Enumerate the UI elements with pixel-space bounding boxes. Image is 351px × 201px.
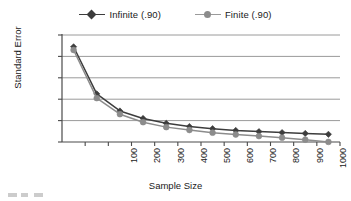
- scan-artifact: [8, 193, 44, 198]
- x-tick-label: 300: [176, 148, 186, 188]
- data-point-marker: [256, 133, 262, 139]
- series-line: [74, 47, 329, 135]
- data-point-marker: [302, 137, 308, 143]
- series-finite: [71, 47, 332, 145]
- x-tick-label: 100: [129, 148, 139, 188]
- chart-figure: Infinite (.90) Finite (.90) Standard Err…: [0, 0, 351, 201]
- plot-area: [62, 35, 340, 142]
- x-tick-label: 200: [152, 148, 162, 188]
- series-infinite: [70, 44, 331, 138]
- x-tick-label: 1000: [338, 148, 348, 188]
- x-tick-label: 500: [222, 148, 232, 188]
- data-point-marker: [71, 47, 77, 53]
- data-point-marker: [325, 131, 331, 137]
- x-tick-label: 900: [315, 148, 325, 188]
- data-series-layer: [70, 44, 331, 145]
- data-point-marker: [210, 130, 216, 136]
- data-point-marker: [94, 95, 100, 101]
- gridlines: [62, 35, 340, 121]
- data-point-marker: [279, 135, 285, 141]
- data-point-marker: [233, 132, 239, 138]
- x-tick-label: 700: [268, 148, 278, 188]
- data-point-marker: [163, 124, 169, 130]
- data-point-marker: [117, 111, 123, 117]
- plot-svg: [62, 35, 340, 142]
- x-tick-label: 600: [245, 148, 255, 188]
- data-point-marker: [326, 139, 332, 145]
- x-tick-label: 400: [199, 148, 209, 188]
- x-tick-label: 800: [291, 148, 301, 188]
- data-point-marker: [140, 119, 146, 125]
- data-point-marker: [187, 127, 193, 133]
- data-point-marker: [302, 130, 308, 136]
